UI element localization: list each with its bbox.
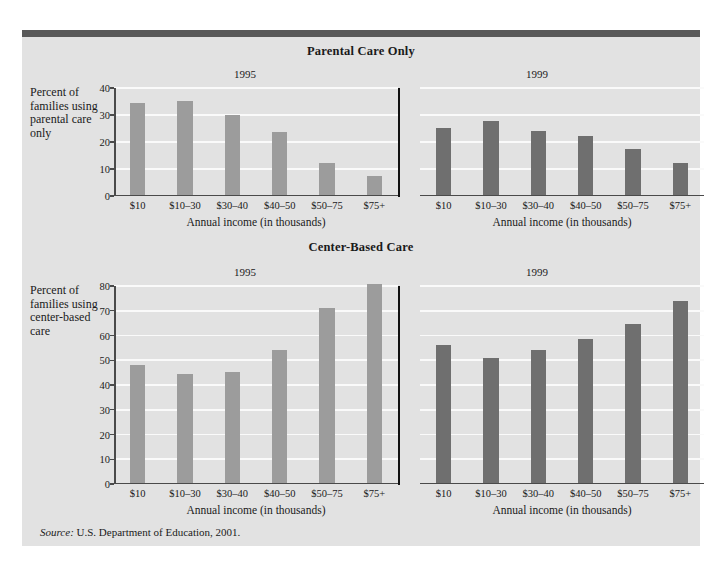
x-axis-tick-label: $40–50: [570, 200, 602, 211]
y-axis-line: [114, 88, 116, 196]
bar: [225, 372, 241, 483]
y-axis-tick-label: 40: [100, 380, 111, 391]
top-rule-divider: [22, 30, 700, 37]
y-axis-tick-label: 70: [100, 305, 111, 316]
x-axis-tick-label: $50–75: [617, 200, 649, 211]
plot-area-parental-1995: 010203040$10$10–30$30–40$40–50$50–75$75+: [114, 88, 398, 196]
bar: [367, 176, 383, 195]
gridline: [420, 458, 704, 460]
x-axis-caption-center-1995: Annual income (in thousands): [106, 504, 406, 516]
bar: [483, 121, 499, 194]
y-axis-tick-label: 60: [100, 330, 111, 341]
bar: [319, 163, 335, 195]
y-axis-tick-label: 50: [100, 355, 111, 366]
gridline: [420, 87, 704, 89]
gridline: [420, 310, 704, 312]
y-axis-line: [114, 286, 116, 484]
y-axis-label-parental: Percent of families using parental care …: [30, 86, 106, 140]
bar: [367, 284, 383, 483]
bar: [531, 131, 547, 195]
source-note-label: Source:: [40, 526, 74, 538]
year-label-1995-parental: 1995: [205, 68, 285, 80]
x-axis-tick-label: $75+: [669, 200, 691, 211]
y-axis-tick-label: 30: [100, 110, 111, 121]
x-axis-caption-center-1999: Annual income (in thousands): [412, 504, 712, 516]
bar: [177, 101, 193, 194]
gridline: [114, 384, 398, 386]
gridline: [420, 141, 704, 143]
x-axis-caption-parental-1999: Annual income (in thousands): [412, 216, 712, 228]
gridline: [420, 285, 704, 287]
gridline: [114, 310, 398, 312]
x-axis-tick-label: $50–75: [311, 488, 343, 499]
bar: [625, 149, 641, 194]
bar: [130, 103, 146, 195]
chart-parental-care: 1995 1999 Percent of families using pare…: [22, 68, 700, 228]
bar: [272, 350, 288, 483]
gridline: [420, 434, 704, 436]
x-axis-tick-label: $50–75: [311, 200, 343, 211]
gridline: [114, 458, 398, 460]
bar: [625, 324, 641, 482]
x-axis-line: [114, 195, 398, 197]
x-axis-tick-label: $10–30: [475, 488, 507, 499]
y-axis-tick-label: 10: [100, 164, 111, 175]
gridline: [420, 359, 704, 361]
chart-center-based-care: 1995 1999 Percent of families using cent…: [22, 266, 700, 526]
x-axis-tick-label: $10: [130, 488, 146, 499]
x-axis-tick-label: $75+: [669, 488, 691, 499]
y-axis-label-center: Percent of families using center-based c…: [30, 284, 106, 338]
bar: [483, 358, 499, 482]
bar: [130, 365, 146, 483]
bar: [578, 339, 594, 483]
gridline: [114, 114, 398, 116]
source-note-text: U.S. Department of Education, 2001.: [74, 526, 241, 538]
x-axis-tick-label: $10–30: [169, 200, 201, 211]
bar: [436, 128, 452, 195]
gridline: [114, 335, 398, 337]
plot-area-center-1995: 01020304050607080$10$10–30$30–40$40–50$5…: [114, 286, 398, 484]
x-axis-tick-label: $10: [130, 200, 146, 211]
bar: [578, 136, 594, 195]
bar: [673, 163, 689, 195]
x-axis-tick-label: $75+: [363, 488, 385, 499]
chart-title-center-based-care: Center-Based Care: [22, 240, 700, 255]
x-axis-tick-label: $10–30: [475, 200, 507, 211]
gridline: [114, 409, 398, 411]
gridline: [420, 168, 704, 170]
bar: [673, 301, 689, 483]
x-axis-tick-label: $40–50: [264, 488, 296, 499]
x-axis-line: [420, 483, 704, 485]
y-axis-tick-label: 20: [100, 137, 111, 148]
bar: [531, 350, 547, 483]
x-axis-tick-label: $30–40: [523, 200, 555, 211]
gridline: [114, 141, 398, 143]
gridline: [420, 114, 704, 116]
x-axis-tick-label: $50–75: [617, 488, 649, 499]
x-axis-tick-label: $10: [436, 200, 452, 211]
gridline: [114, 87, 398, 89]
gridline: [114, 359, 398, 361]
panel-divider-center: [398, 286, 400, 485]
gridline: [114, 168, 398, 170]
x-axis-tick-label: $30–40: [523, 488, 555, 499]
figure-panel: Parental Care Only 1995 1999 Percent of …: [22, 30, 700, 546]
y-axis-tick-label: 30: [100, 404, 111, 415]
bar: [272, 132, 288, 195]
x-axis-line: [114, 483, 398, 485]
y-axis-tick-label: 40: [100, 83, 111, 94]
bar: [225, 115, 241, 195]
x-axis-tick-label: $40–50: [570, 488, 602, 499]
year-label-1995-center: 1995: [205, 266, 285, 278]
x-axis-tick-label: $30–40: [217, 200, 249, 211]
x-axis-line: [420, 195, 704, 197]
plot-area-parental-1999: $10$10–30$30–40$40–50$50–75$75+: [420, 88, 704, 196]
gridline: [114, 285, 398, 287]
bar: [436, 345, 452, 483]
year-label-1999-parental: 1999: [497, 68, 577, 80]
x-axis-tick-label: $10–30: [169, 488, 201, 499]
x-axis-caption-parental-1995: Annual income (in thousands): [106, 216, 406, 228]
x-axis-tick-label: $30–40: [217, 488, 249, 499]
source-note: Source: U.S. Department of Education, 20…: [40, 526, 240, 538]
bar: [319, 308, 335, 482]
